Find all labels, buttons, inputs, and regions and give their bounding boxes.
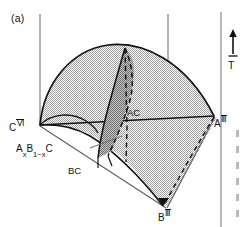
vertex-a-superscript: Ⅲ xyxy=(221,115,228,124)
vertex-b-superscript: Ⅲ xyxy=(165,209,172,218)
vertex-a-base: A xyxy=(214,118,221,129)
vertex-b-label: BⅢ xyxy=(158,210,171,223)
vertex-c-base: C xyxy=(9,122,16,133)
phase-label-bc: BC xyxy=(68,166,81,176)
alloy-sub-x: x xyxy=(23,150,27,159)
alloy-sub-1mx: 1−x xyxy=(33,150,45,159)
page-edge-artifact xyxy=(234,130,242,225)
temperature-axis-arrow xyxy=(229,29,238,56)
vertex-c-superscript: Ⅵ xyxy=(16,119,24,128)
section-base-ticks xyxy=(98,156,112,168)
vertex-c-label: CⅥ xyxy=(9,120,24,133)
vertex-a-label: AⅢ xyxy=(214,116,227,129)
phase-diagram-figure: (a) T CⅥ AⅢ BⅢ AC BC AxB1−xC xyxy=(0,0,242,227)
phase-diagram-canvas xyxy=(0,0,242,227)
vertex-b-base: B xyxy=(158,212,165,223)
phase-label-ac: AC xyxy=(127,108,140,118)
temperature-axis-label: T xyxy=(228,60,234,71)
alloy-suffix: C xyxy=(45,143,52,154)
panel-label: (a) xyxy=(11,13,24,24)
alloy-composition-label: AxB1−xC xyxy=(16,144,53,157)
alloy-prefix: A xyxy=(16,143,23,154)
